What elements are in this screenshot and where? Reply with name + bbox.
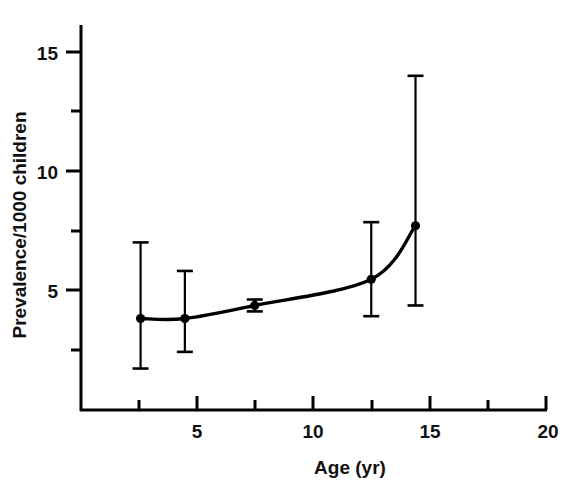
y-axis-title: Prevalence/1000 children xyxy=(9,111,30,338)
x-axis-title: Age (yr) xyxy=(314,457,386,478)
data-point-marker xyxy=(250,301,259,310)
x-tick-label-5: 5 xyxy=(192,421,203,442)
data-point-marker xyxy=(180,314,189,323)
chart-figure: 15 10 5 5 10 15 20 Age (yr) Prevalence/1… xyxy=(0,0,577,497)
chart-background xyxy=(0,0,577,497)
prevalence-vs-age-line-chart: 15 10 5 5 10 15 20 Age (yr) Prevalence/1… xyxy=(0,0,577,497)
data-point-marker xyxy=(136,314,145,323)
y-tick-label-10: 10 xyxy=(37,162,58,183)
y-tick-label-15: 15 xyxy=(37,43,59,64)
x-tick-label-10: 10 xyxy=(302,421,323,442)
x-tick-label-20: 20 xyxy=(537,421,558,442)
data-point-marker xyxy=(411,221,420,230)
x-tick-label-15: 15 xyxy=(419,421,441,442)
y-tick-label-5: 5 xyxy=(47,281,58,302)
data-point-marker xyxy=(367,275,376,284)
